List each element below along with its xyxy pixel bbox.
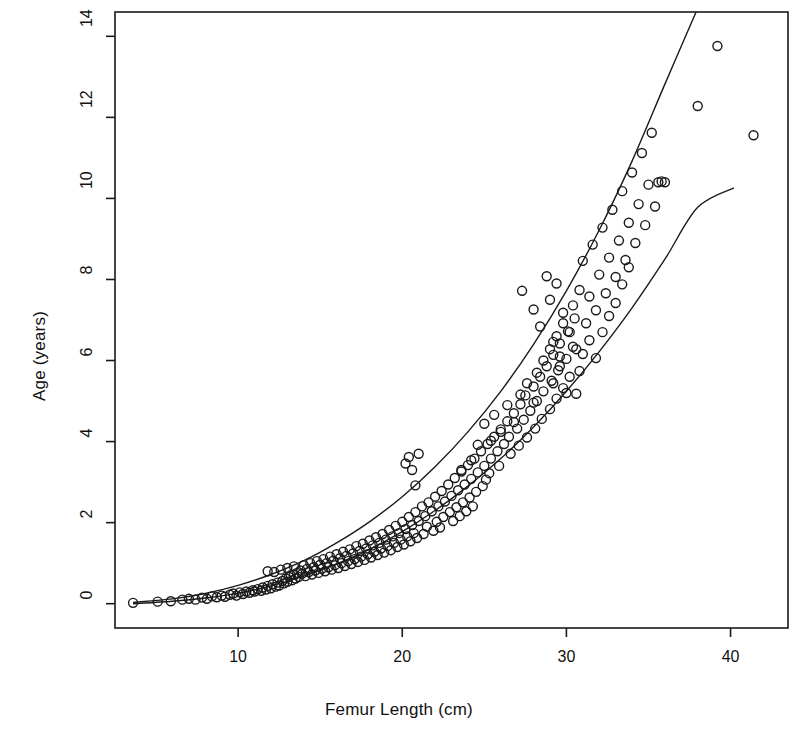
- data-point: [647, 128, 656, 137]
- data-point: [417, 502, 426, 511]
- data-point: [631, 239, 640, 248]
- data-point: [585, 292, 594, 301]
- y-axis-title: Age (years): [30, 256, 50, 456]
- data-point: [568, 301, 577, 310]
- data-point: [693, 102, 702, 111]
- data-point: [618, 280, 627, 289]
- data-points-layer: [129, 42, 758, 608]
- data-point: [611, 273, 620, 282]
- data-point: [516, 400, 525, 409]
- data-point: [468, 502, 477, 511]
- data-point: [503, 401, 512, 410]
- scatter-plot-canvas: [0, 0, 798, 744]
- data-point: [493, 447, 502, 456]
- x-tick-label: 10: [229, 648, 247, 666]
- data-point: [624, 218, 633, 227]
- data-point: [618, 187, 627, 196]
- data-point: [605, 311, 614, 320]
- data-point: [422, 522, 431, 531]
- data-point: [539, 387, 548, 396]
- data-point: [490, 410, 499, 419]
- data-point: [601, 289, 610, 298]
- data-point: [628, 168, 637, 177]
- data-point: [414, 449, 423, 458]
- data-point: [591, 306, 600, 315]
- data-point: [572, 389, 581, 398]
- data-point: [486, 454, 495, 463]
- x-tick-label: 20: [393, 648, 411, 666]
- data-point: [651, 202, 660, 211]
- data-point: [495, 461, 504, 470]
- data-point: [509, 409, 518, 418]
- data-point: [641, 221, 650, 230]
- data-point: [519, 415, 528, 424]
- data-point: [549, 379, 558, 388]
- data-point: [542, 272, 551, 281]
- x-axis-title: Femur Length (cm): [0, 700, 798, 720]
- data-point: [713, 42, 722, 51]
- data-point: [559, 319, 568, 328]
- x-tick-label: 30: [557, 648, 575, 666]
- data-point: [506, 449, 515, 458]
- data-point: [634, 200, 643, 209]
- data-point: [749, 131, 758, 140]
- data-point: [545, 295, 554, 304]
- data-point: [518, 286, 527, 295]
- data-point: [552, 279, 561, 288]
- plot-frame: [115, 12, 788, 628]
- data-point: [559, 308, 568, 317]
- data-point: [605, 253, 614, 262]
- data-point: [575, 286, 584, 295]
- data-point: [614, 236, 623, 245]
- upper-fitted-curve: [133, 12, 696, 602]
- data-point: [536, 322, 545, 331]
- data-point: [529, 305, 538, 314]
- x-tick-label: 40: [722, 648, 740, 666]
- data-point: [644, 180, 653, 189]
- lower-fitted-curve: [133, 188, 734, 604]
- figure-root: Femur Length (cm) Age (years) 10203040 0…: [0, 0, 798, 744]
- data-point: [585, 336, 594, 345]
- data-point: [480, 419, 489, 428]
- data-point: [504, 432, 513, 441]
- x-axis-ticks: [238, 628, 730, 637]
- data-point: [624, 263, 633, 272]
- data-point: [598, 328, 607, 337]
- data-point: [637, 149, 646, 158]
- data-point: [578, 350, 587, 359]
- data-point: [582, 319, 591, 328]
- data-point: [529, 398, 538, 407]
- data-point: [570, 314, 579, 323]
- data-point: [565, 372, 574, 381]
- data-point: [408, 465, 417, 474]
- data-point: [595, 270, 604, 279]
- y-axis-ticks: [106, 36, 115, 603]
- data-point: [611, 298, 620, 307]
